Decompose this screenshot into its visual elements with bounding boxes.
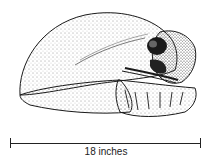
scale-line (10, 143, 200, 144)
scale-label: 18 inches (0, 146, 212, 157)
skull-illustration (0, 0, 212, 125)
scale-bar: 18 inches (0, 128, 212, 161)
